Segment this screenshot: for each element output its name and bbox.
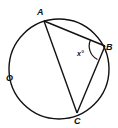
circle-o <box>9 19 109 119</box>
label-o: O <box>6 73 13 83</box>
segment-ac <box>44 21 77 113</box>
segment-ab <box>44 21 105 46</box>
label-c: C <box>74 116 81 126</box>
label-a: A <box>36 7 44 17</box>
label-b: B <box>106 42 113 52</box>
geometry-diagram: A B C O x° <box>0 0 118 128</box>
angle-label-x: x° <box>76 50 84 57</box>
